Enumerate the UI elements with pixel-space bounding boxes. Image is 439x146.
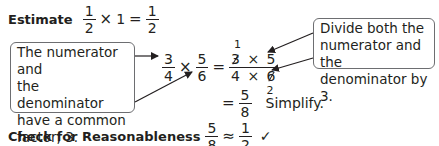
arrow-to-numerator <box>268 33 313 52</box>
callout-arrows <box>0 0 439 146</box>
arrow-to-denominator <box>272 58 313 70</box>
arrow-to-five-sixths <box>135 72 192 102</box>
